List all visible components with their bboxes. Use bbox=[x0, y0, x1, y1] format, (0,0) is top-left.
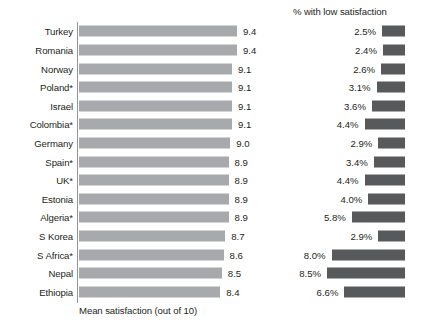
table-row: 2.6% bbox=[0, 59, 426, 78]
low-satisfaction-bar bbox=[378, 138, 405, 149]
low-satisfaction-value: 5.8% bbox=[308, 212, 346, 223]
low-satisfaction-value: 3.6% bbox=[328, 100, 366, 111]
table-row: 8.5% bbox=[0, 264, 426, 283]
low-satisfaction-value: 2.9% bbox=[334, 138, 372, 149]
low-satisfaction-bar bbox=[381, 63, 405, 74]
table-row: 4.4% bbox=[0, 171, 426, 190]
table-row: 4.4% bbox=[0, 115, 426, 134]
low-satisfaction-value: 3.1% bbox=[333, 82, 371, 93]
low-satisfaction-bar bbox=[383, 44, 405, 55]
low-satisfaction-value: 3.4% bbox=[330, 156, 368, 167]
table-row: 2.9% bbox=[0, 227, 426, 246]
low-satisfaction-bar bbox=[377, 82, 405, 93]
table-row: 2.4% bbox=[0, 41, 426, 60]
table-row: 6.6% bbox=[0, 283, 426, 302]
low-satisfaction-bar bbox=[365, 119, 405, 130]
low-satisfaction-value: 2.6% bbox=[337, 63, 375, 74]
table-row: 3.6% bbox=[0, 96, 426, 115]
table-row: 3.4% bbox=[0, 152, 426, 171]
low-satisfaction-value: 6.6% bbox=[300, 286, 338, 297]
right-panel-title: % with low satisfaction bbox=[293, 6, 387, 17]
low-satisfaction-bar bbox=[382, 26, 405, 37]
table-row: 5.8% bbox=[0, 208, 426, 227]
low-satisfaction-value: 4.4% bbox=[321, 119, 359, 130]
low-satisfaction-bar bbox=[374, 156, 405, 167]
table-row: 8.0% bbox=[0, 245, 426, 264]
table-row: 2.5% bbox=[0, 22, 426, 41]
low-satisfaction-bar bbox=[344, 286, 405, 297]
low-satisfaction-value: 8.0% bbox=[288, 249, 326, 260]
low-satisfaction-bar bbox=[327, 268, 405, 279]
x-axis-caption: Mean satisfaction (out of 10) bbox=[79, 305, 197, 316]
low-satisfaction-value: 8.5% bbox=[283, 268, 321, 279]
satisfaction-chart: % with low satisfaction Turkey9.4Romania… bbox=[0, 0, 426, 322]
table-row: 4.0% bbox=[0, 190, 426, 209]
low-satisfaction-bar bbox=[368, 193, 405, 204]
low-satisfaction-bar bbox=[378, 231, 405, 242]
low-satisfaction-bar bbox=[332, 249, 405, 260]
low-satisfaction-value: 4.0% bbox=[324, 193, 362, 204]
low-satisfaction-value: 2.9% bbox=[334, 231, 372, 242]
low-satisfaction-value: 2.5% bbox=[338, 26, 376, 37]
low-satisfaction-value: 2.4% bbox=[339, 44, 377, 55]
table-row: 3.1% bbox=[0, 78, 426, 97]
low-satisfaction-bar bbox=[365, 175, 405, 186]
table-row: 2.9% bbox=[0, 134, 426, 153]
low-satisfaction-bar bbox=[372, 100, 405, 111]
low-satisfaction-bar bbox=[352, 212, 405, 223]
low-satisfaction-value: 4.4% bbox=[321, 175, 359, 186]
